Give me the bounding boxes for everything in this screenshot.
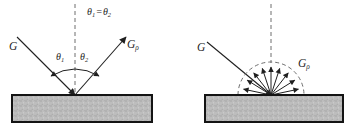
left-reflected-label: Gρ — [127, 39, 139, 52]
label-sub: 1 — [61, 56, 64, 63]
equal-angles-equation: θ1=θ2 — [87, 7, 111, 18]
label-sub: ρ — [306, 62, 310, 71]
equals-sign: = — [95, 6, 103, 17]
right-reflected-label: Gρ — [298, 58, 310, 71]
diffuse-arrow — [271, 68, 280, 95]
left-surface — [12, 95, 152, 122]
equation-rhs-sub: 2 — [108, 11, 111, 18]
left-incident-ray — [17, 37, 75, 95]
right-irradiation-label: G — [197, 42, 205, 55]
label-base: G — [197, 41, 205, 53]
reflection-figure: θ1=θ2 G Gρ θ1 θ2 G Gρ — [0, 0, 352, 136]
diffuse-panel — [205, 4, 343, 122]
right-surface — [205, 95, 343, 122]
diffuse-arrow-fan — [244, 67, 299, 95]
label-base: G — [9, 40, 17, 52]
incidence-angle-label: θ1 — [56, 52, 64, 63]
label-sub: 2 — [85, 56, 88, 63]
label-sub: ρ — [135, 43, 139, 52]
left-irradiation-label: G — [9, 41, 17, 54]
reflection-angle-label: θ2 — [80, 52, 88, 63]
left-reflected-ray — [75, 37, 126, 95]
